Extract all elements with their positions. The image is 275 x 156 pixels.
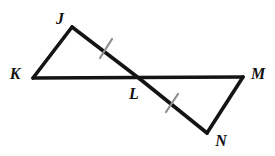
vertex-label-M: M — [251, 66, 265, 82]
segment-L-N — [140, 79, 207, 133]
vertex-label-L: L — [129, 86, 139, 102]
segment-J-L — [72, 27, 140, 79]
vertex-label-J: J — [56, 11, 64, 27]
vertex-label-N: N — [215, 133, 227, 149]
segment-K-J — [33, 27, 72, 78]
segment-K-M — [33, 77, 243, 78]
geometry-canvas — [0, 0, 275, 156]
vertex-label-K: K — [10, 66, 21, 82]
geometry-figure: J K L M N — [0, 0, 275, 156]
segments-group — [33, 27, 243, 133]
segment-N-M — [207, 77, 243, 133]
